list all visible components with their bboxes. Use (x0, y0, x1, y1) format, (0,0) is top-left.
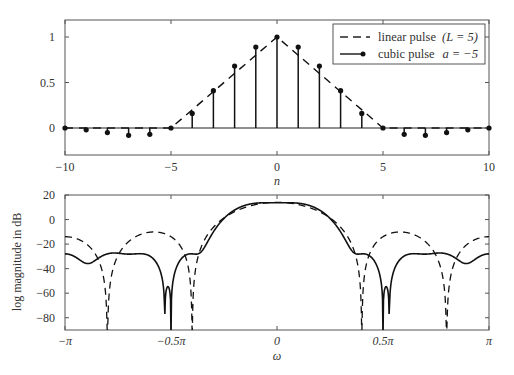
figure: −10−5051000.51 n linear pulse (L = 5) cu… (0, 0, 514, 375)
y-tick-label: −40 (36, 262, 55, 276)
stem-dot (402, 132, 407, 137)
x-tick-label: −5 (165, 160, 178, 174)
x-tick-label: −10 (56, 160, 75, 174)
legend-param-cubic: a = −5 (442, 47, 478, 61)
y-tick-label: 0 (49, 121, 55, 135)
stem-dot (211, 88, 216, 93)
y-tick-label: −20 (36, 237, 55, 251)
x-tick-label: −0.5π (156, 334, 186, 348)
stem-dot (190, 111, 195, 116)
y-tick-label: 20 (43, 188, 55, 202)
stem-dot (168, 125, 173, 130)
x-tick-label: π (486, 334, 493, 348)
stem-dot (423, 133, 428, 138)
stem-dot (147, 132, 152, 137)
x-tick-label: 0 (274, 334, 280, 348)
x-tick-label: 0.5π (372, 334, 394, 348)
stem-dot (105, 130, 110, 135)
x-tick-label: −π (58, 334, 73, 348)
x-tick-label: 10 (483, 160, 495, 174)
stem-dot (380, 125, 385, 130)
stem-dot (126, 133, 131, 138)
y-tick-label: 1 (49, 30, 55, 44)
bottom-xlabel: ω (273, 349, 281, 363)
stem-dot (296, 44, 301, 49)
stem-dot (253, 44, 258, 49)
stem-dot (84, 127, 89, 132)
top-xlabel: n (274, 174, 280, 188)
bottom-ylabel: log magnitude in dB (10, 213, 24, 311)
linear-pulse-spectrum (65, 202, 489, 336)
stem-dot (486, 125, 491, 130)
y-tick-label: −80 (36, 311, 55, 325)
stem-dot (274, 34, 279, 39)
legend-param-linear: (L = 5) (442, 30, 478, 44)
bottom-plot-ticks: −π−0.5π00.5ππ200−20−40−60−80 (36, 188, 493, 348)
stem-dot (338, 88, 343, 93)
stem-dot (465, 127, 470, 132)
x-tick-label: 5 (380, 160, 386, 174)
legend-label-cubic: cubic pulse (378, 47, 435, 61)
stem-dot (444, 130, 449, 135)
legend-dot-icon (361, 52, 366, 57)
stem-dot (359, 111, 364, 116)
cubic-pulse-spectrum (65, 203, 489, 336)
stem-dot (62, 125, 67, 130)
stem-dot (317, 64, 322, 69)
x-tick-label: 0 (274, 160, 280, 174)
y-tick-label: 0 (49, 213, 55, 227)
bottom-plot-frame (65, 195, 489, 330)
y-tick-label: −60 (36, 286, 55, 300)
legend-label-linear: linear pulse (378, 30, 436, 44)
stem-dot (232, 64, 237, 69)
bottom-plot: −π−0.5π00.5ππ200−20−40−60−80 ω log magni… (10, 188, 493, 363)
y-tick-label: 0.5 (40, 76, 55, 90)
legend: linear pulse (L = 5) cubic pulse a = −5 (333, 24, 485, 64)
top-plot: −10−5051000.51 n linear pulse (L = 5) cu… (40, 20, 495, 188)
